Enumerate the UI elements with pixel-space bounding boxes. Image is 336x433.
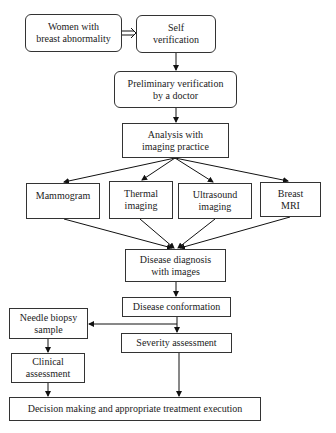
node-breast-mri: Breast MRI <box>260 182 321 217</box>
node-thermal-imaging: Thermal imaging <box>109 181 173 219</box>
node-analysis-imaging: Analysis with imaging practice <box>122 123 229 158</box>
node-disease-diagnosis: Disease diagnosis with images <box>125 249 226 282</box>
node-clinical-assessment: Clinical assessment <box>11 353 85 383</box>
node-preliminary-verification: Preliminary verification by a doctor <box>114 71 237 108</box>
node-decision-treatment: Decision making and appropriate treatmen… <box>9 397 261 421</box>
node-self-verification: Self verification <box>136 15 216 53</box>
node-disease-conformation: Disease conformation <box>122 297 231 317</box>
node-needle-biopsy: Needle biopsy sample <box>9 308 88 339</box>
node-mammogram: Mammogram <box>26 183 100 219</box>
node-women-breast-abnormality: Women with breast abnormality <box>25 14 122 52</box>
node-severity-assessment: Severity assessment <box>121 333 232 353</box>
node-ultrasound-imaging: Ultrasound imaging <box>178 183 252 219</box>
